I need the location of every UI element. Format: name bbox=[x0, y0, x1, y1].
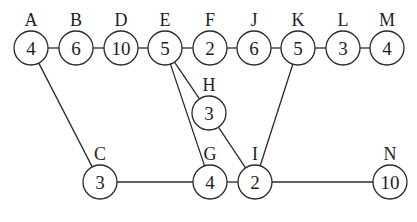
node-label: N bbox=[384, 144, 397, 164]
node-label: L bbox=[338, 10, 349, 30]
edge-h-i bbox=[218, 127, 245, 168]
node-value: 4 bbox=[382, 38, 392, 59]
node-k: 5K bbox=[281, 10, 315, 65]
node-d: 10D bbox=[104, 10, 138, 65]
node-value: 3 bbox=[204, 103, 214, 124]
node-label: H bbox=[203, 75, 216, 95]
node-label: F bbox=[205, 10, 215, 30]
node-value: 10 bbox=[112, 38, 131, 59]
node-label: I bbox=[252, 144, 258, 164]
node-a: 4A bbox=[14, 10, 48, 65]
node-l: 3L bbox=[326, 10, 360, 65]
node-value: 2 bbox=[250, 172, 260, 193]
node-label: G bbox=[204, 144, 217, 164]
node-b: 6B bbox=[59, 10, 93, 65]
node-label: D bbox=[115, 10, 128, 30]
edge-a-c bbox=[39, 63, 92, 167]
node-e: 5E bbox=[148, 10, 182, 65]
node-label: C bbox=[94, 144, 106, 164]
node-c: 3C bbox=[83, 144, 117, 199]
node-h: 3H bbox=[192, 75, 226, 130]
node-label: M bbox=[379, 10, 395, 30]
node-value: 5 bbox=[160, 38, 170, 59]
node-value: 5 bbox=[293, 38, 303, 59]
node-n: 10N bbox=[373, 144, 407, 199]
node-value: 3 bbox=[338, 38, 348, 59]
node-label: K bbox=[292, 10, 305, 30]
edge-e-h bbox=[175, 62, 200, 99]
node-j: 6J bbox=[237, 10, 271, 65]
node-g: 4G bbox=[193, 144, 227, 199]
node-value: 10 bbox=[381, 172, 400, 193]
node-value: 4 bbox=[26, 38, 36, 59]
node-value: 4 bbox=[205, 172, 215, 193]
node-label: B bbox=[70, 10, 82, 30]
node-m: 4M bbox=[370, 10, 404, 65]
node-i: 2I bbox=[238, 144, 272, 199]
node-label: E bbox=[160, 10, 171, 30]
node-value: 2 bbox=[205, 38, 215, 59]
nodes-layer: 4A6B10D5E2F6J5K3L4M3H3C4G2I10N bbox=[14, 10, 407, 199]
node-value: 3 bbox=[95, 172, 105, 193]
network-diagram: 4A6B10D5E2F6J5K3L4M3H3C4G2I10N bbox=[0, 0, 417, 222]
node-value: 6 bbox=[71, 38, 81, 59]
node-label: A bbox=[25, 10, 38, 30]
node-f: 2F bbox=[193, 10, 227, 65]
edge-k-i bbox=[260, 64, 293, 166]
node-value: 6 bbox=[249, 38, 259, 59]
node-label: J bbox=[250, 10, 257, 30]
